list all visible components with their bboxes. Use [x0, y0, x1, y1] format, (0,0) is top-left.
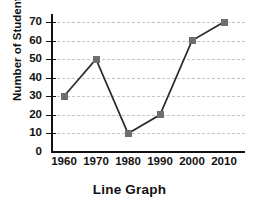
line-chart: Number of Students 70 60 50 40 30 20 10 — [0, 0, 259, 175]
data-point-1990 — [157, 111, 164, 118]
chart-title: Line Graph — [0, 182, 259, 197]
data-point-2010 — [221, 19, 228, 26]
data-point-1980 — [125, 130, 132, 137]
data-point-markers — [0, 0, 259, 175]
data-point-1960 — [61, 93, 68, 100]
data-point-2000 — [189, 37, 196, 44]
chart-page: Number of Students 70 60 50 40 30 20 10 — [0, 0, 259, 205]
data-point-1970 — [93, 56, 100, 63]
